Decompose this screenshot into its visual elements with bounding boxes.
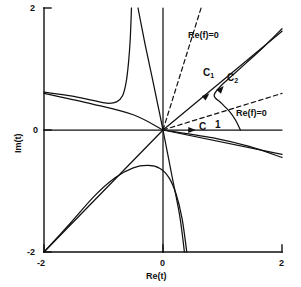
label-refzero-upper: Re(f)=0	[188, 31, 219, 40]
y-tick-label-zero: 0	[33, 126, 38, 135]
x-axis-title: Re(t)	[146, 272, 167, 281]
figure-complex-plane: 2 0 -2 -2 0 2 Re(t) Im(t) Re(f)=0 Re(f)=…	[0, 0, 301, 287]
arrowhead-steepest-descent-C1	[202, 91, 212, 100]
label-contour-c2-subscript: 2	[234, 77, 238, 84]
curve-branch-lower-steep-from-origin	[163, 130, 184, 252]
x-tick-label-zero: 0	[160, 259, 165, 268]
curve-branch-upper-left-hyperbola	[44, 8, 131, 103]
x-tick-label-left: -2	[37, 259, 45, 268]
curve-group	[44, 8, 282, 252]
y-axis-title: Im(t)	[14, 134, 23, 154]
y-tick-label-bottom: -2	[27, 248, 35, 257]
x-tick-label-right: 2	[279, 259, 284, 268]
curve-branch-lower-left-line	[44, 130, 163, 252]
label-contour-c: C	[199, 122, 206, 132]
arrowhead-real-axis-contour-C	[188, 127, 196, 133]
curve-refzero-line-upper	[163, 8, 201, 130]
curve-branch-upper-steep-descending	[138, 8, 163, 130]
label-refzero-lower: Re(f)=0	[236, 109, 267, 118]
plot-canvas	[0, 0, 301, 287]
label-contour-c1: C1	[203, 68, 214, 79]
label-contour-c1-subscript: 1	[210, 72, 214, 79]
curve-branch-upper-left-asymptote	[44, 93, 163, 130]
y-tick-label-top: 2	[30, 4, 35, 13]
label-contour-c2: C2	[227, 73, 238, 84]
label-point-one: 1	[215, 120, 221, 130]
